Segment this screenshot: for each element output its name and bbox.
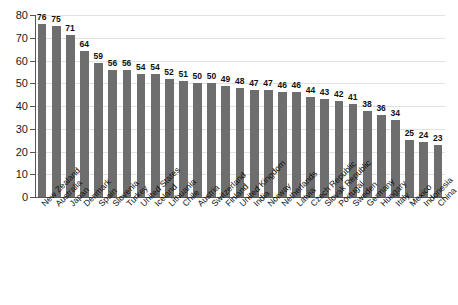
bar-value-label: 46: [292, 81, 301, 90]
bar-value-label: 48: [235, 77, 244, 86]
bar-value-label: 76: [37, 13, 46, 22]
bar: [38, 24, 47, 197]
bar-value-label: 50: [193, 72, 202, 81]
bar-value-label: 47: [263, 79, 272, 88]
y-tick-label: 40: [2, 101, 28, 112]
bar-value-label: 24: [419, 131, 428, 140]
bar-value-label: 46: [277, 81, 286, 90]
y-tick-label: 70: [2, 33, 28, 44]
y-tick-label: 20: [2, 147, 28, 158]
bar-value-label: 43: [320, 88, 329, 97]
bar-value-label: 41: [348, 93, 357, 102]
bar-value-label: 49: [221, 75, 230, 84]
bar-value-label: 59: [94, 52, 103, 61]
bar-value-label: 50: [207, 72, 216, 81]
bar: [151, 74, 160, 197]
bar-value-label: 71: [65, 24, 74, 33]
bar-value-label: 36: [376, 104, 385, 113]
bar: [80, 51, 89, 197]
bar: [108, 70, 117, 197]
bar-value-label: 23: [433, 134, 442, 143]
y-tick-label: 30: [2, 124, 28, 135]
y-tick-label: 60: [2, 56, 28, 67]
bar: [405, 140, 414, 197]
bar-value-label: 47: [249, 79, 258, 88]
bar-value-label: 56: [108, 59, 117, 68]
bar-value-label: 34: [391, 109, 400, 118]
bar: [137, 74, 146, 197]
y-tick-label: 50: [2, 78, 28, 89]
bar-value-label: 38: [362, 100, 371, 109]
bar-chart: 01020304050607080 7675716459565654545251…: [0, 0, 458, 305]
bar-value-label: 56: [122, 59, 131, 68]
bar: [94, 63, 103, 197]
bar-value-label: 64: [79, 40, 88, 49]
bar-value-label: 51: [178, 70, 187, 79]
y-tick-label: 0: [2, 192, 28, 203]
y-tick-label: 10: [2, 169, 28, 180]
bar-value-label: 42: [334, 90, 343, 99]
bar-value-label: 54: [136, 63, 145, 72]
bar: [123, 70, 132, 197]
plot-wrapper: 01020304050607080 7675716459565654545251…: [0, 0, 458, 305]
bar-value-label: 25: [405, 129, 414, 138]
y-tick: [30, 197, 36, 198]
y-tick-label: 80: [2, 10, 28, 21]
bar: [52, 26, 61, 197]
bar-value-label: 52: [164, 68, 173, 77]
bar: [207, 83, 216, 197]
bar-value-label: 44: [306, 86, 315, 95]
bar-value-label: 54: [150, 63, 159, 72]
bar-value-label: 75: [51, 15, 60, 24]
